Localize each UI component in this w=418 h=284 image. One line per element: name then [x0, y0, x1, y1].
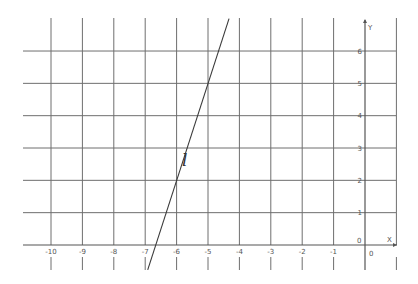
x-tick-label: -5	[205, 248, 212, 256]
x-tick-label: -6	[173, 248, 181, 256]
horizontal-gridlines	[23, 51, 396, 213]
axes	[23, 19, 397, 270]
x-tick-label: -1	[330, 248, 337, 256]
x-tick-label: -8	[110, 248, 117, 256]
origin-label-y: 0	[357, 237, 361, 245]
x-tick-label: -7	[142, 248, 149, 256]
x-tick-label: -2	[299, 248, 306, 256]
x-tick-label: -3	[267, 248, 274, 256]
y-axis-arrow-icon	[363, 19, 367, 23]
vertical-gridlines	[51, 18, 396, 270]
y-tick-label: 2	[358, 177, 362, 185]
y-tick-label: 6	[358, 48, 363, 56]
tick-labels: -10-9-8-7-6-5-4-3-2-1123456	[45, 48, 362, 256]
origin-label-x: 0	[369, 250, 373, 258]
x-tick-label: -4	[236, 248, 244, 256]
y-tick-label: 3	[358, 145, 362, 153]
x-tick-label: -10	[45, 248, 56, 256]
y-tick-label: 5	[358, 80, 362, 88]
coordinate-plane: -10-9-8-7-6-5-4-3-2-1123456 Y X 0 0 l	[0, 0, 418, 284]
y-axis-label: Y	[367, 24, 373, 32]
y-tick-label: 1	[358, 209, 362, 217]
y-tick-label: 4	[358, 112, 363, 120]
line-l	[148, 19, 229, 270]
x-tick-label: -9	[79, 248, 86, 256]
line-l	[148, 19, 229, 270]
x-axis-label: X	[387, 236, 392, 244]
line-l-label: l	[182, 150, 187, 170]
